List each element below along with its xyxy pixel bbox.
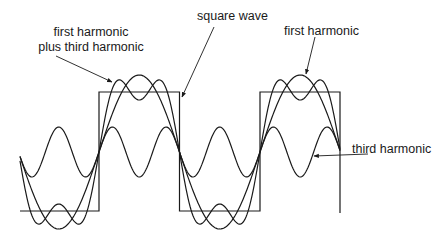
sum-label-line1: first harmonic [32, 25, 150, 40]
third-harmonic-label: third harmonic [352, 142, 431, 157]
sum-label-arrow [56, 56, 112, 82]
sum-label-line2: plus third harmonic [32, 40, 150, 55]
square-label-arrow [182, 27, 214, 97]
first-label-arrow [306, 37, 315, 74]
first-harmonic-label: first harmonic [284, 24, 359, 39]
sum-label: first harmonic plus third harmonic [32, 25, 150, 55]
square-wave-label: square wave [197, 9, 268, 24]
